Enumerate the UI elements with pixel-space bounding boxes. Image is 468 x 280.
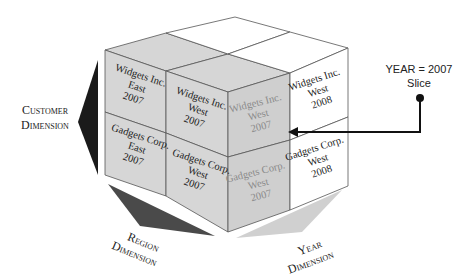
region-dimension-label: Region Dimension (110, 225, 165, 269)
svg-text:Dimension: Dimension (21, 118, 69, 132)
year-dimension-label: Year Dimension (281, 234, 336, 277)
customer-dimension-arrow (78, 60, 98, 175)
olap-cube-diagram: Widgets Inc. East 2007 Widgets Inc. West… (0, 0, 468, 280)
customer-dimension-label: Customer Dimension (21, 103, 69, 132)
svg-text:Slice: Slice (407, 77, 431, 89)
svg-text:YEAR = 2007: YEAR = 2007 (386, 63, 453, 75)
svg-text:Customer: Customer (22, 103, 69, 117)
slice-callout-label: YEAR = 2007 Slice (386, 63, 453, 89)
